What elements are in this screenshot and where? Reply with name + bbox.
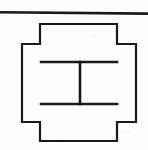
top-border-rule: [0, 12, 148, 13]
technical-drawing-svg: [0, 0, 148, 150]
figure-container: Cruciform section outline with inner I-b…: [0, 0, 148, 150]
